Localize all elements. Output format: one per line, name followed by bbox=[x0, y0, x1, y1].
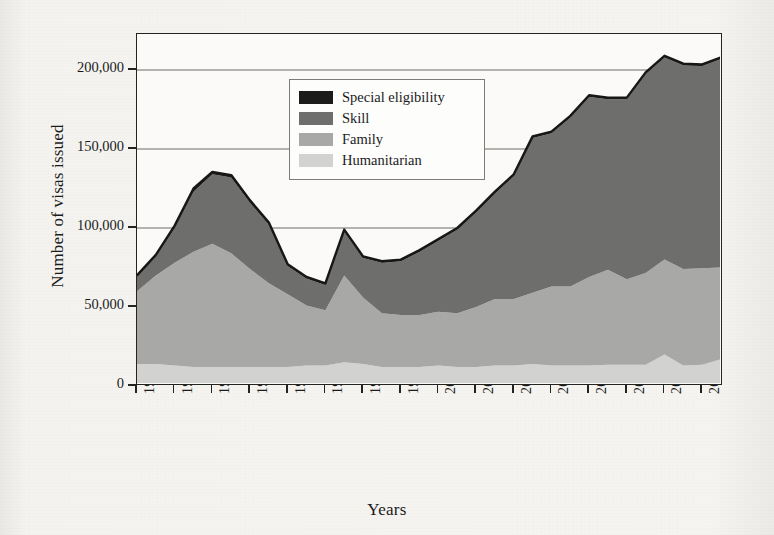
legend-swatch-skill bbox=[299, 112, 333, 125]
legend-swatch-family bbox=[299, 133, 333, 146]
x-tick-mark bbox=[399, 385, 401, 393]
x-tick-mark bbox=[324, 385, 326, 393]
y-tick-label: 50,000 bbox=[0, 296, 124, 313]
legend-item: Special eligibility bbox=[299, 87, 475, 108]
legend-item: Skill bbox=[299, 108, 475, 129]
legend-swatch-special-eligibility bbox=[299, 91, 333, 104]
legend-label: Skill bbox=[342, 111, 369, 126]
plot-area: Special eligibilitySkillFamilyHumanitari… bbox=[136, 33, 722, 385]
x-tick-mark bbox=[663, 385, 665, 393]
legend-label: Special eligibility bbox=[342, 90, 445, 105]
legend-label: Humanitarian bbox=[342, 153, 422, 168]
legend: Special eligibilitySkillFamilyHumanitari… bbox=[289, 79, 485, 180]
x-tick-mark bbox=[550, 385, 552, 393]
y-tick-label: 0 bbox=[0, 375, 124, 392]
y-tick-label: 150,000 bbox=[0, 138, 124, 155]
x-axis-title: Years bbox=[0, 500, 774, 520]
legend-label: Family bbox=[342, 132, 383, 147]
x-tick-mark bbox=[361, 385, 363, 393]
x-tick-mark bbox=[512, 385, 514, 393]
x-tick-mark bbox=[700, 385, 702, 393]
x-tick-mark bbox=[211, 385, 213, 393]
x-tick-mark bbox=[625, 385, 627, 393]
legend-swatch-humanitarian bbox=[299, 154, 333, 167]
stacked-area-chart: Number of visas issued Years 050,000100,… bbox=[0, 0, 774, 535]
x-tick-mark bbox=[135, 385, 137, 393]
x-tick-mark bbox=[248, 385, 250, 393]
x-tick-mark bbox=[173, 385, 175, 393]
y-tick-label: 200,000 bbox=[0, 59, 124, 76]
x-tick-mark bbox=[437, 385, 439, 393]
y-tick-label: 100,000 bbox=[0, 217, 124, 234]
x-tick-mark bbox=[587, 385, 589, 393]
legend-item: Family bbox=[299, 129, 475, 150]
x-tick-mark bbox=[474, 385, 476, 393]
legend-item: Humanitarian bbox=[299, 150, 475, 171]
x-tick-mark bbox=[286, 385, 288, 393]
